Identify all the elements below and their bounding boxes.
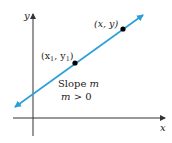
slope-diagram: y x (x1, y1) (x, y) Slope m m > 0 (0, 0, 172, 143)
slope-annotation-line2: m > 0 (61, 91, 92, 102)
point-x1-y1-label: (x1, y1) (41, 50, 74, 63)
x-axis-label: x (160, 122, 166, 133)
point-x-y (120, 26, 125, 31)
slope-annotation-line1: Slope m (58, 78, 99, 89)
point-x1-y1 (72, 60, 77, 65)
y-axis-label: y (23, 10, 30, 21)
point-x-y-label: (x, y) (94, 18, 118, 29)
